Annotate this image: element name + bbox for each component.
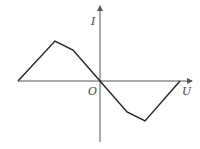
origin-label: O	[88, 85, 97, 98]
iu-diagram: I O U	[0, 0, 200, 149]
u-axis-label: U	[182, 85, 192, 98]
i-axis-label: I	[90, 15, 96, 28]
